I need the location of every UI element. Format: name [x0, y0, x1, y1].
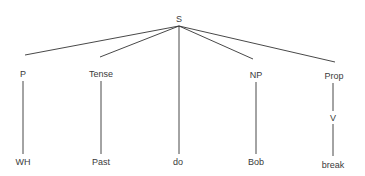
leaf-wh: WH [16, 157, 31, 167]
node-v: V [330, 113, 336, 123]
leaf-do: do [173, 157, 183, 167]
leaf-bob: Bob [248, 157, 264, 167]
node-np: NP [250, 70, 263, 80]
node-tense: Tense [89, 69, 113, 79]
node-s: S [176, 14, 182, 24]
leaf-past: Past [92, 157, 110, 167]
edge-s-p [25, 26, 179, 55]
tree-edges [0, 0, 365, 176]
node-p: P [20, 69, 26, 79]
edge-s-np [179, 26, 253, 59]
leaf-break: break [322, 160, 345, 170]
node-prop: Prop [324, 71, 343, 81]
edge-s-tense [100, 26, 179, 57]
edge-s-prop [179, 26, 335, 62]
